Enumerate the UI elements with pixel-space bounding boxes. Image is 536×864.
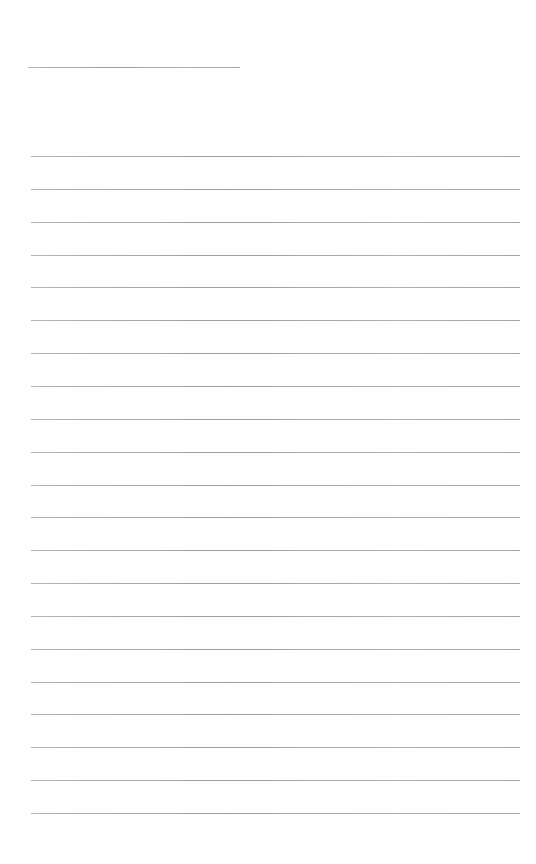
ruled-line <box>31 517 520 518</box>
ruled-line <box>31 682 520 683</box>
ruled-line <box>31 747 520 748</box>
ruled-line <box>31 452 520 453</box>
ruled-lines <box>0 0 536 864</box>
ruled-line <box>31 222 520 223</box>
lined-paper-page <box>0 0 536 864</box>
ruled-line <box>31 714 520 715</box>
ruled-line <box>31 550 520 551</box>
ruled-line <box>31 813 520 814</box>
ruled-line <box>31 780 520 781</box>
ruled-line <box>31 616 520 617</box>
ruled-line <box>31 353 520 354</box>
ruled-line <box>31 419 520 420</box>
ruled-line <box>31 189 520 190</box>
ruled-line <box>31 320 520 321</box>
ruled-line <box>31 649 520 650</box>
ruled-line <box>31 255 520 256</box>
ruled-line <box>31 485 520 486</box>
ruled-line <box>31 583 520 584</box>
ruled-line <box>31 156 520 157</box>
ruled-line <box>31 386 520 387</box>
ruled-line <box>31 287 520 288</box>
